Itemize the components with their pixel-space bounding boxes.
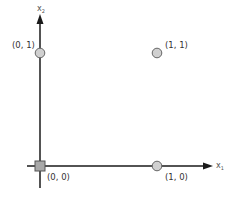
point-1-0-circle (152, 161, 162, 171)
x-axis-label: x1 (216, 161, 224, 171)
point-origin-label: (0, 0) (47, 172, 70, 182)
point-1-1-circle (152, 48, 162, 58)
y-axis-arrowhead-icon (37, 14, 44, 24)
point-0-1-label: (0, 1) (12, 40, 35, 50)
point-1-0-label: (1, 0) (165, 172, 188, 182)
point-1-1-label: (1, 1) (165, 40, 188, 50)
point-origin-square (35, 161, 45, 171)
coordinate-diagram: x2 x1 (0, 0) (1, 0) (0, 1) (1, 1) (0, 0, 230, 199)
y-axis-label: x2 (37, 4, 45, 14)
point-0-1-circle (35, 48, 45, 58)
x-axis-arrowhead-icon (203, 163, 213, 170)
